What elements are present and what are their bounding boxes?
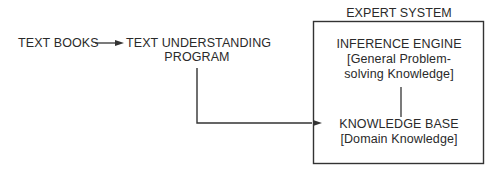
expert-system-title: EXPERT SYSTEM xyxy=(313,6,485,20)
node-text-books: TEXT BOOKS xyxy=(18,36,99,50)
knowledge-base-desc: [Domain Knowledge] xyxy=(313,132,485,147)
node-inference-engine: INFERENCE ENGINE [General Problem- solvi… xyxy=(313,37,485,82)
node-knowledge-base: KNOWLEDGE BASE [Domain Knowledge] xyxy=(313,117,485,147)
inference-engine-desc-line2: solving Knowledge] xyxy=(313,67,485,82)
node-label-line1: TEXT UNDERSTANDING xyxy=(126,36,268,50)
arrow-program-to-knowledge-base xyxy=(197,68,312,123)
knowledge-base-label: KNOWLEDGE BASE xyxy=(313,117,485,132)
arrowhead-icon xyxy=(115,40,124,46)
node-text-understanding-program: TEXT UNDERSTANDING PROGRAM xyxy=(126,36,268,64)
inference-engine-desc-line1: [General Problem- xyxy=(313,52,485,67)
node-label-line2: PROGRAM xyxy=(126,50,268,64)
inference-engine-label: INFERENCE ENGINE xyxy=(313,37,485,52)
